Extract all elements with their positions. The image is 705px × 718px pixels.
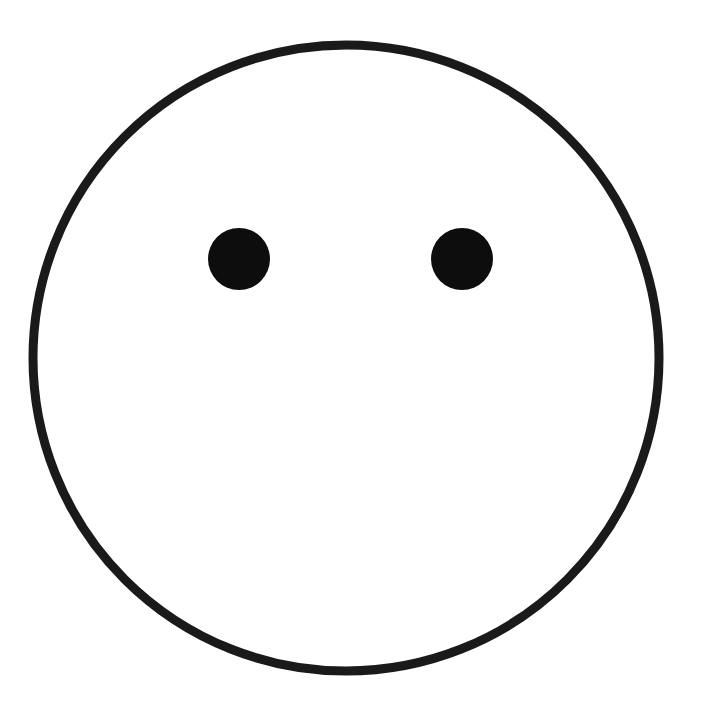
face-drawing (0, 0, 705, 718)
drawing-background (0, 0, 705, 718)
right-eye (431, 228, 493, 290)
left-eye (208, 228, 270, 290)
